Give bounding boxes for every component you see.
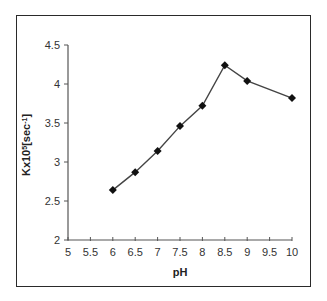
- y-tick-label: 4.5: [45, 39, 60, 51]
- x-tick-label: 7: [155, 246, 161, 258]
- x-tick-label: 9: [244, 246, 250, 258]
- y-axis: 22.533.544.5: [45, 39, 68, 246]
- x-tick-label: 6.5: [128, 246, 143, 258]
- x-tick-label: 9.5: [262, 246, 277, 258]
- x-tick-label: 8.5: [217, 246, 232, 258]
- y-tick-label: 3: [54, 156, 60, 168]
- x-tick-label: 5: [65, 246, 71, 258]
- x-tick-label: 8: [199, 246, 205, 258]
- x-tick-label: 5.5: [83, 246, 98, 258]
- x-axis: 55.566.577.588.599.510: [65, 237, 298, 258]
- y-tick-label: 2.5: [45, 195, 60, 207]
- x-tick-label: 7.5: [172, 246, 187, 258]
- line-chart: 22.533.544.5 55.566.577.588.599.510 pH K…: [0, 0, 327, 301]
- y-axis-title: Kx105[sec-1]: [20, 114, 32, 176]
- diamond-marker: [288, 94, 296, 102]
- x-axis-title: pH: [173, 266, 188, 278]
- y-tick-label: 3.5: [45, 117, 60, 129]
- x-tick-label: 6: [110, 246, 116, 258]
- series-line: [113, 65, 292, 190]
- y-tick-label: 2: [54, 234, 60, 246]
- x-tick-label: 10: [286, 246, 298, 258]
- y-tick-label: 4: [54, 78, 60, 90]
- data-series: [109, 61, 296, 194]
